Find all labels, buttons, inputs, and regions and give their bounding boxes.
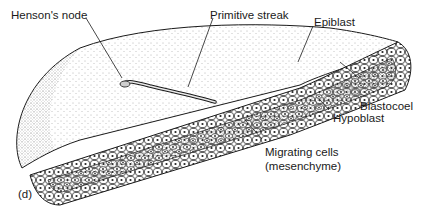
label-migrating-cells: Migrating cells	[265, 146, 339, 159]
hensons-node-shape	[120, 81, 130, 87]
label-epiblast: Epiblast	[314, 16, 355, 29]
label-hensons-node: Henson's node	[11, 9, 87, 22]
label-mesenchyme: (mesenchyme)	[265, 160, 341, 173]
panel-label: (d)	[18, 188, 32, 200]
label-hypoblast: Hypoblast	[333, 112, 384, 125]
label-primitive-streak: Primitive streak	[210, 9, 289, 22]
